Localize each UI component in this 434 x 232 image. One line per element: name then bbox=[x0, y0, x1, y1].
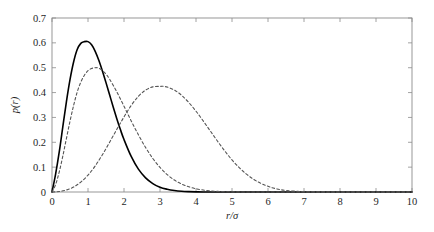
x-tick-label: 1 bbox=[85, 196, 90, 207]
x-tick-label: 3 bbox=[157, 196, 162, 207]
y-tick-label: 0.5 bbox=[33, 62, 46, 73]
y-tick-label: 0 bbox=[41, 187, 46, 198]
x-tick-label: 5 bbox=[229, 196, 234, 207]
y-tick-label: 0.6 bbox=[33, 37, 46, 48]
y-axis-title: p(r) bbox=[9, 96, 21, 114]
x-tick-label: 7 bbox=[301, 196, 306, 207]
x-tick-label: 2 bbox=[121, 196, 126, 207]
x-tick-label: 8 bbox=[337, 196, 342, 207]
x-tick-label: 10 bbox=[407, 196, 418, 207]
figure-container: 01234567891000.10.20.30.40.50.60.7 r/σ p… bbox=[0, 0, 434, 232]
x-tick-label: 0 bbox=[49, 196, 54, 207]
x-axis-title: r/σ bbox=[226, 210, 239, 221]
x-tick-label: 4 bbox=[193, 196, 199, 207]
y-tick-label: 0.3 bbox=[33, 112, 46, 123]
y-tick-label: 0.7 bbox=[33, 13, 46, 24]
x-tick-label: 9 bbox=[373, 196, 378, 207]
y-tick-label: 0.2 bbox=[33, 137, 46, 148]
x-tick-label: 6 bbox=[265, 196, 270, 207]
y-tick-label: 0.1 bbox=[33, 162, 46, 173]
y-tick-label: 0.4 bbox=[33, 87, 47, 98]
radial-distribution-plot: 01234567891000.10.20.30.40.50.60.7 r/σ p… bbox=[0, 0, 434, 232]
